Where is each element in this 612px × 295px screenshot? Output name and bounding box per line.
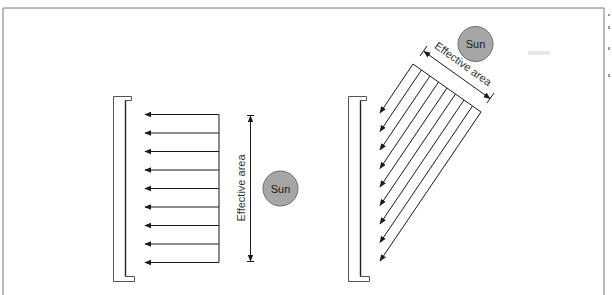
- left-rays: [145, 115, 219, 263]
- left-wall: [114, 97, 135, 282]
- diagram-figure: Effective area Sun: [0, 0, 612, 295]
- left-panel: Effective area Sun: [114, 97, 299, 282]
- right-wall: [349, 97, 370, 282]
- right-sun-label: Sun: [466, 38, 486, 50]
- frame: [3, 8, 604, 295]
- right-rays: [380, 64, 481, 261]
- edge-fragments: [608, 14, 610, 77]
- faint-smudge: [528, 51, 550, 55]
- left-dimension-arrow: [247, 116, 254, 262]
- left-dimension-label: Effective area: [235, 154, 247, 222]
- left-sun-label: Sun: [271, 183, 291, 195]
- right-panel: Effective area Sun: [349, 27, 495, 282]
